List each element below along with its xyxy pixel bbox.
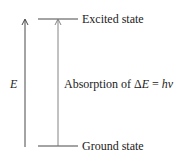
energy-var: E [142, 77, 149, 91]
photon-energy: hν [162, 77, 173, 91]
transition-label: Absorption of ΔE = hν [64, 78, 173, 90]
ground-state-label: Ground state [82, 140, 144, 152]
transition-prefix: Absorption of [64, 77, 134, 91]
delta-symbol: Δ [134, 77, 142, 91]
excited-state-label: Excited state [82, 13, 144, 25]
energy-axis-label: E [10, 78, 17, 90]
equals: = [149, 77, 162, 91]
